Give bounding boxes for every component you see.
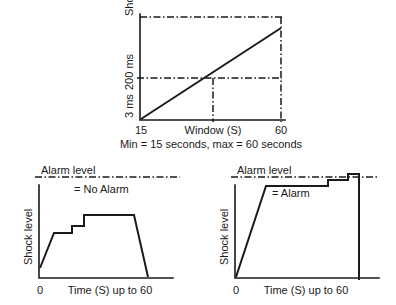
yaxis-title: Shock level	[218, 209, 230, 265]
xaxis-title: Window (S)	[185, 124, 242, 136]
chart-caption: Min = 15 seconds, max = 60 seconds	[120, 138, 303, 150]
series-annotation: = Alarm	[272, 187, 310, 199]
xtick-label-high: 60	[275, 124, 287, 136]
figure-svg: 200 ms Shock 3 ms 15 Window (S) 60 Min =…	[0, 0, 396, 305]
xtick-label-low: 15	[135, 124, 147, 136]
xaxis-title: Time (S) up to 60	[68, 284, 153, 296]
data-series-no-alarm	[40, 215, 148, 277]
alarm-level-label: Alarm level	[237, 164, 291, 176]
ytick-label-high: 200 ms	[123, 53, 135, 90]
figure-container: 200 ms Shock 3 ms 15 Window (S) 60 Min =…	[0, 0, 396, 305]
xaxis-title: Time (S) up to 60	[264, 284, 349, 296]
xtick-label-zero: 0	[233, 284, 239, 296]
chart-no-alarm-example: Alarm level = No Alarm Shock level 0 Tim…	[22, 164, 180, 296]
axes-shock-vs-window	[140, 14, 285, 120]
yaxis-title: Shock	[123, 0, 135, 16]
xtick-label-zero: 0	[37, 284, 43, 296]
yaxis-title: Shock level	[22, 209, 34, 265]
ytick-label-low: 3 ms	[123, 94, 135, 118]
axes-no-alarm	[39, 185, 173, 278]
chart-alarm-example: Alarm level = Alarm Shock level 0 Time (…	[218, 164, 379, 296]
series-annotation: = No Alarm	[74, 183, 129, 195]
chart-shock-vs-window: 200 ms Shock 3 ms 15 Window (S) 60 Min =…	[120, 0, 303, 150]
alarm-level-label: Alarm level	[41, 164, 95, 176]
data-series-shock-vs-window	[141, 28, 281, 119]
